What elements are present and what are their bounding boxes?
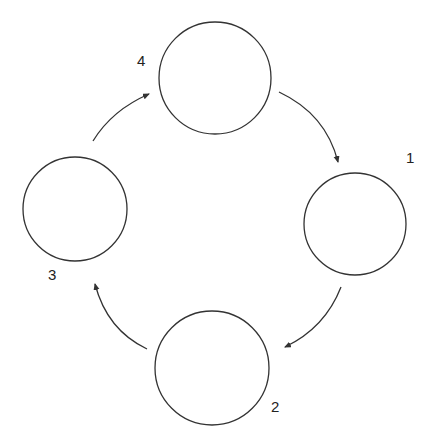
- cycle-diagram: 1 2 3 4: [0, 0, 436, 448]
- node-3-label: 3: [48, 266, 56, 283]
- node-2-circle: [155, 311, 269, 425]
- node-4-label: 4: [137, 52, 145, 69]
- node-1-label: 1: [406, 149, 414, 166]
- node-4-circle: [159, 22, 271, 134]
- node-2-label: 2: [271, 398, 279, 415]
- arrow-2-to-3: [95, 284, 147, 349]
- node-3-circle: [23, 157, 127, 261]
- arrow-4-to-1: [279, 92, 338, 162]
- arrow-1-to-2: [285, 287, 341, 347]
- arrow-3-to-4: [93, 94, 149, 141]
- node-1-circle: [304, 173, 406, 275]
